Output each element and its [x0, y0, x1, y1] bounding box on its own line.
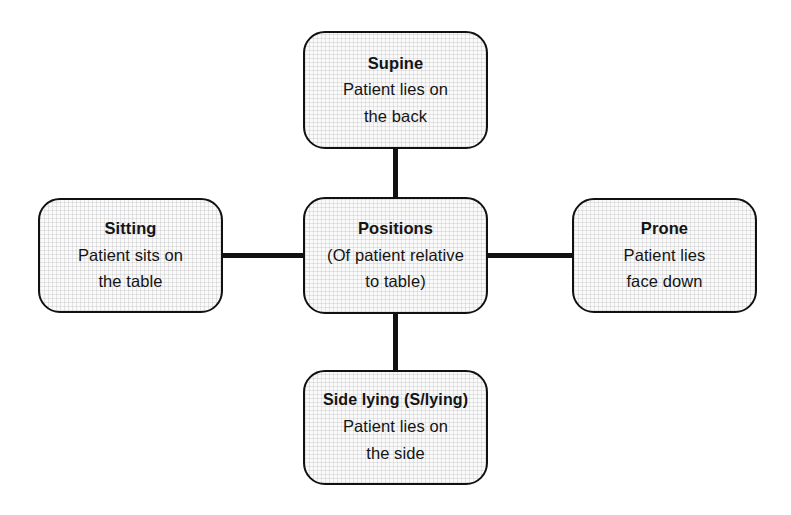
node-supine[interactable]: Supine Patient lies on the back [303, 31, 488, 149]
node-positions-title: Positions [358, 216, 433, 242]
node-positions-center[interactable]: Positions (Of patient relative to table) [303, 197, 488, 314]
node-prone-line-2: face down [626, 268, 702, 295]
node-side-lying[interactable]: Side lying (S/lying) Patient lies on the… [303, 370, 488, 485]
node-positions-line-2: to table) [365, 268, 426, 295]
node-positions-line-1: (Of patient relative [327, 242, 464, 269]
connector-center-to-prone [484, 253, 575, 258]
node-side-lying-title: Side lying (S/lying) [323, 388, 468, 413]
node-side-lying-line-2: the side [366, 440, 425, 467]
node-prone-line-1: Patient lies [624, 242, 706, 269]
node-prone[interactable]: Prone Patient lies face down [572, 198, 757, 313]
node-supine-line-1: Patient lies on [343, 76, 448, 103]
node-sitting-title: Sitting [104, 216, 156, 242]
node-sitting-line-1: Patient sits on [78, 242, 183, 269]
node-sitting[interactable]: Sitting Patient sits on the table [38, 198, 223, 313]
connector-center-to-side-lying [393, 311, 398, 372]
diagram-canvas: Supine Patient lies on the back Sitting … [0, 0, 791, 515]
connector-center-to-sitting [219, 253, 307, 258]
node-supine-line-2: the back [364, 103, 427, 130]
node-side-lying-line-1: Patient lies on [343, 413, 448, 440]
connector-center-to-supine [393, 146, 398, 200]
node-sitting-line-2: the table [98, 268, 162, 295]
node-prone-title: Prone [641, 216, 688, 242]
node-supine-title: Supine [368, 51, 424, 77]
